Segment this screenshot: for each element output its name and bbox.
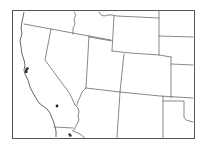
location-marker-dot bbox=[56, 105, 59, 108]
western-us-map bbox=[0, 0, 200, 150]
bay-area-mark bbox=[25, 70, 28, 73]
map-frame bbox=[13, 11, 195, 139]
